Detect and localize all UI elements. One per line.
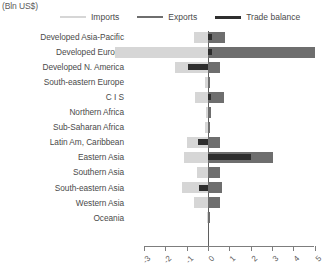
bar-trade-balance [198,139,208,145]
chart-row [0,45,322,59]
bar-exports [208,212,210,223]
legend-swatch-trade-balance-icon [215,16,241,19]
bar-trade-balance [208,34,212,40]
bar-exports [208,122,210,133]
plot-area: Developed Asia-PacificDeveloped EuropeDe… [0,31,322,246]
axis-tick [293,246,294,251]
chart-unit-title: (Bln US$) [2,1,38,11]
axis-tick [315,246,316,251]
chart-row [0,135,322,149]
chart-row [0,120,322,134]
chart-row [0,75,322,89]
legend-item-imports: Imports [60,12,119,22]
axis-tick [208,246,209,251]
chart-row [0,165,322,179]
bar-trade-balance [208,154,251,160]
bar-imports [194,197,208,208]
legend-item-trade-balance: Trade balance [215,12,300,22]
axis-tick [272,246,273,251]
bar-exports [208,182,222,193]
chart-row [0,150,322,164]
chart-row [0,181,322,195]
bar-trade-balance [208,49,212,55]
axis-tick [165,246,166,251]
legend-label-exports: Exports [168,12,197,22]
bar-trade-balance [188,64,208,70]
chart-row [0,211,322,225]
legend-item-exports: Exports [137,12,197,22]
legend-label-imports: Imports [91,12,119,22]
axis-tick [144,246,145,251]
axis-tick [229,246,230,251]
legend-label-trade-balance: Trade balance [246,12,300,22]
bar-imports [195,92,208,103]
bar-exports [208,137,220,148]
bar-exports [208,107,211,118]
bar-imports [115,47,208,58]
bar-trade-balance [208,94,211,100]
bar-imports [194,32,208,43]
chart-row [0,105,322,119]
chart-row [0,196,322,210]
bar-exports [208,197,220,208]
chart-legend: Imports Exports Trade balance [60,12,300,22]
bar-exports [208,77,210,88]
chart-row [0,60,322,74]
legend-swatch-exports-icon [137,16,163,19]
bar-trade-balance [199,185,208,191]
bars-area [0,31,322,246]
bar-exports [208,62,220,73]
bar-exports [208,47,315,58]
axis-tick [251,246,252,251]
bar-imports [184,152,208,163]
chart-row [0,30,322,44]
trade-bar-chart: (Bln US$) Imports Exports Trade balance … [0,0,322,277]
axis-tick [187,246,188,251]
bar-exports [208,167,220,178]
bar-imports [197,167,208,178]
chart-row [0,90,322,104]
legend-swatch-imports-icon [60,16,86,18]
